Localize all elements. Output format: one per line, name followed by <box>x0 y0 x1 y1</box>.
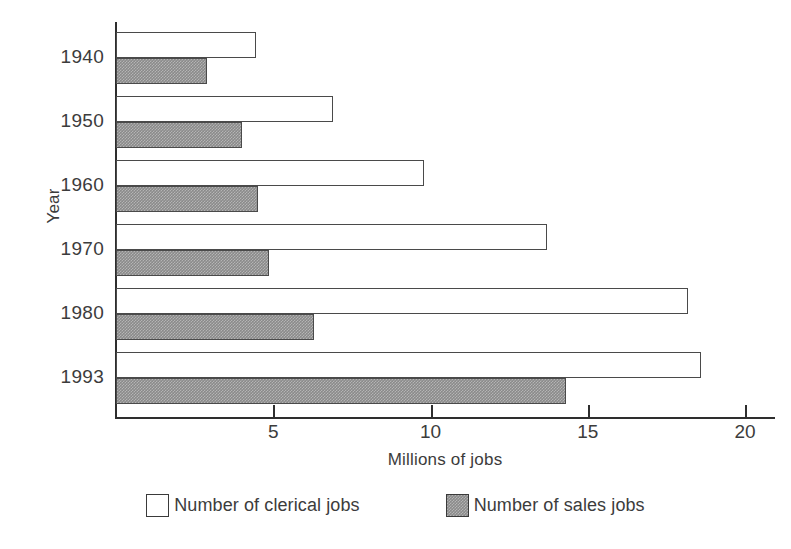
bar-sales-1993 <box>116 378 566 404</box>
bar-sales-1960 <box>116 186 258 212</box>
bar-sales-1970 <box>116 250 269 276</box>
chart-legend: Number of clerical jobsNumber of sales j… <box>0 494 791 517</box>
y-tick-label-1970: 1970 <box>42 238 104 260</box>
legend-item-sales: Number of sales jobs <box>446 494 645 517</box>
x-tick-10 <box>431 405 433 418</box>
legend-label: Number of sales jobs <box>474 495 645 516</box>
bar-clerical-1960 <box>116 160 424 186</box>
y-tick-label-1960: 1960 <box>42 174 104 196</box>
x-tick-label-20: 20 <box>720 421 770 443</box>
clerical-swatch <box>146 494 169 517</box>
bar-sales-1980 <box>116 314 314 340</box>
sales-swatch <box>446 494 469 517</box>
x-tick-label-15: 15 <box>563 421 613 443</box>
legend-label: Number of clerical jobs <box>174 495 359 516</box>
y-tick-label-1980: 1980 <box>42 302 104 324</box>
x-tick-label-10: 10 <box>406 421 456 443</box>
legend-item-clerical: Number of clerical jobs <box>146 494 359 517</box>
bar-clerical-1993 <box>116 352 701 378</box>
x-tick-5 <box>273 405 275 418</box>
y-tick-label-1993: 1993 <box>42 366 104 388</box>
bar-sales-1940 <box>116 58 207 84</box>
bar-clerical-1940 <box>116 32 256 58</box>
bar-clerical-1970 <box>116 224 547 250</box>
bar-chart: Year 194019501960197019801993 5101520 Mi… <box>0 0 791 549</box>
x-axis-title: Millions of jobs <box>115 450 775 470</box>
x-axis-line <box>115 417 775 419</box>
bar-clerical-1980 <box>116 288 688 314</box>
bar-sales-1950 <box>116 122 242 148</box>
x-tick-20 <box>745 405 747 418</box>
x-tick-15 <box>588 405 590 418</box>
x-tick-label-5: 5 <box>248 421 298 443</box>
y-tick-label-1950: 1950 <box>42 110 104 132</box>
bar-clerical-1950 <box>116 96 333 122</box>
y-tick-label-1940: 1940 <box>42 46 104 68</box>
